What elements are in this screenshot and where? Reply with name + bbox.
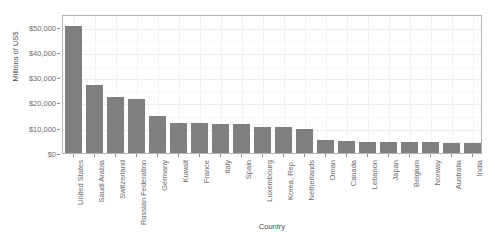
gridline-vertical [410,16,411,153]
bar [86,85,104,153]
bar [65,26,83,153]
gridline-vertical [368,16,369,153]
bar [317,140,335,153]
gridline-horizontal-minor [63,142,481,143]
gridline-vertical [326,16,327,153]
bar [443,143,461,153]
x-axis-tick-mark [262,154,263,157]
bar [422,142,440,153]
x-axis-tick-mark [220,154,221,157]
x-axis-tick-mark [157,154,158,157]
x-axis-tick-label: Italy [223,160,232,174]
bar [275,127,293,153]
x-axis-tick-label: Lebanon [370,160,379,189]
x-axis-tick-label: Belgium [412,160,421,187]
chart-title-clipped [62,0,482,3]
bar [254,127,272,153]
bar [401,142,419,153]
gridline-horizontal [63,104,481,105]
bar [149,116,167,153]
plot-panel [62,15,482,154]
y-axis-tick-label: $10,000 [16,124,56,133]
y-axis-tick-mark [57,103,60,104]
bar [233,124,251,153]
bar [191,123,209,153]
x-axis-tick-mark [430,154,431,157]
x-axis-tick-label: Luxembourg [265,160,274,202]
x-axis-tick-label: Kuwait [181,160,190,183]
bar [107,97,125,153]
gridline-vertical [389,16,390,153]
bar [338,141,356,153]
x-axis-tick-mark [178,154,179,157]
gridline-horizontal [63,29,481,30]
x-axis-tick-mark [388,154,389,157]
bar [296,129,314,153]
x-axis-tick-label: Saudi Arabia [97,160,106,203]
gridline-horizontal [63,130,481,131]
x-axis-tick-mark [94,154,95,157]
bar [170,123,188,153]
x-axis-tick-mark [199,154,200,157]
x-axis-tick-label: Norway [433,160,442,185]
y-axis-tick-label: $0 [16,150,56,159]
bar-chart: Millions of US$ $0$10,000$20,000$30,000$… [0,0,495,244]
gridline-horizontal [63,79,481,80]
x-axis-tick-mark [451,154,452,157]
gridline-horizontal-minor [63,41,481,42]
x-axis-tick-label: Netherlands [307,160,316,200]
y-axis-tick-label: $40,000 [16,48,56,57]
x-axis-tick-mark [346,154,347,157]
x-axis-tick-label: France [202,160,211,183]
x-axis-tick-mark [472,154,473,157]
gridline-vertical [347,16,348,153]
x-axis-tick-label: Switzerland [118,160,127,199]
x-axis-tick-label: Spain [244,160,253,179]
x-axis-tick-mark [325,154,326,157]
bar [380,142,398,153]
x-axis-tick-label: Japan [391,160,400,180]
x-axis-tick-mark [115,154,116,157]
x-axis-tick-label: United States [76,160,85,205]
y-axis-tick-mark [57,129,60,130]
x-axis-tick-label: Canada [349,160,358,186]
x-axis-tick-label: Germany [160,160,169,191]
gridline-horizontal-minor [63,67,481,68]
x-axis-tick-label: Oman [328,160,337,180]
x-axis-tick-mark [136,154,137,157]
x-axis-tick-mark [367,154,368,157]
y-axis-tick-label: $30,000 [16,74,56,83]
gridline-horizontal-minor [63,117,481,118]
x-axis-tick-label: Korea, Rep. [286,160,295,200]
gridline-vertical [431,16,432,153]
bar [212,124,230,153]
y-axis-tick-mark [57,28,60,29]
x-axis-tick-mark [241,154,242,157]
gridline-horizontal-minor [63,92,481,93]
y-axis-tick-mark [57,53,60,54]
x-axis-tick-mark [409,154,410,157]
gridline-vertical [452,16,453,153]
y-axis-tick-label: $20,000 [16,99,56,108]
y-axis-tick-labels: $0$10,000$20,000$30,000$40,000$50,000 [16,0,56,244]
gridline-horizontal [63,54,481,55]
y-axis-tick-mark [57,154,60,155]
y-axis-tick-mark [57,78,60,79]
x-axis-tick-label: Russian Federation [139,160,148,225]
x-axis-tick-mark [283,154,284,157]
bar [464,143,482,153]
x-axis-tick-label: Australia [454,160,463,189]
gridline-vertical [473,16,474,153]
bar [359,142,377,153]
x-axis-tick-mark [304,154,305,157]
bar [128,99,146,153]
x-axis-tick-mark [73,154,74,157]
x-axis-title: Country [62,222,482,231]
x-axis-tick-label: India [475,160,484,176]
y-axis-tick-label: $50,000 [16,23,56,32]
